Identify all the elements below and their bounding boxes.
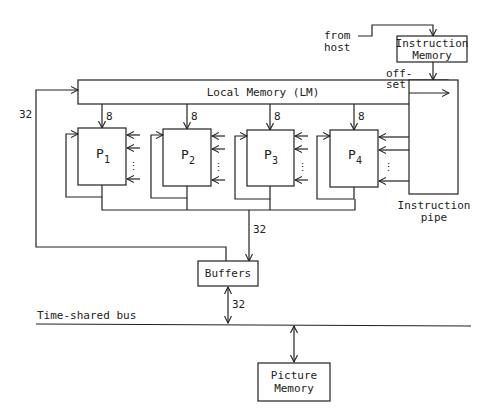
buffers-bus-width-label: 32 [232,298,245,311]
p4-label: P [348,147,356,162]
lm-p4-width: 8 [358,110,365,123]
p3-dots: ⋮ [297,161,308,174]
p2-label: P [181,147,189,162]
lm-p2-width: 8 [191,110,198,123]
instruction-pipe-block: Instruction pipe [398,80,471,224]
picture-memory-line1: Picture [271,369,317,382]
p2-dots: ⋮ [213,161,224,174]
instruction-pipe-line2: pipe [421,211,448,224]
p1-dots: ⋮ [128,160,139,173]
buffers-label: Buffers [205,267,251,280]
time-shared-bus [36,324,471,326]
processor-3: 8 P 3 ⋮ [235,104,308,199]
architecture-diagram: from host Instruction Memory Local Memor… [0,0,485,413]
buffers-block: Buffers [198,261,258,286]
proc-bus-width-label: 32 [253,223,266,236]
p2-index: 2 [189,155,195,166]
picture-memory-line2: Memory [274,382,314,395]
processor-1: 8 P 1 ⋮ [66,104,140,197]
local-memory-label: Local Memory (LM) [207,86,320,99]
bus-label: Time-shared bus [37,309,136,322]
p4-index: 4 [356,155,362,166]
processor-2: 8 P 2 ⋮ [151,104,225,198]
offset-label-line2: set [386,78,406,91]
lm-p1-width: 8 [106,110,113,123]
host-to-im-arrow [358,25,433,36]
p4-dots: ⋮ [383,161,394,174]
p1-label: P [96,146,104,161]
from-host-label-line2: host [324,41,351,54]
processor-4: 8 P 4 ⋮ [317,104,409,199]
instruction-memory-line2: Memory [412,49,452,62]
feedback-width-label: 32 [19,108,32,121]
picture-memory-block: Picture Memory [258,363,330,401]
instruction-memory-block: Instruction Memory [396,36,469,62]
p3-label: P [264,147,272,162]
p1-index: 1 [104,154,110,165]
p3-index: 3 [272,155,278,166]
lm-p3-width: 8 [274,110,281,123]
